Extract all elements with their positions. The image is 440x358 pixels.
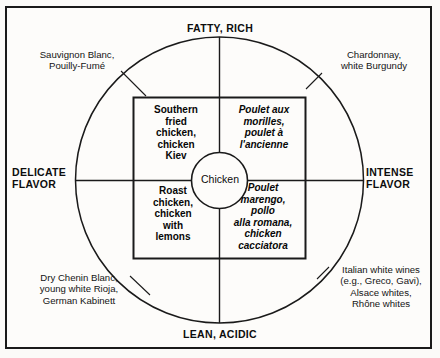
axis-label-top: FATTY, RICH — [0, 22, 440, 34]
axis-label-left: DELICATE FLAVOR — [12, 166, 92, 190]
leader-line-top-left — [121, 71, 146, 96]
food-quadrant-bottom-right: Poulet marengo, pollo alla romana, chick… — [222, 182, 304, 252]
leader-line-top-right — [306, 73, 322, 89]
axis-label-bottom: LEAN, ACIDIC — [0, 328, 440, 340]
wine-note-bottom-right: Italian white wines (e.g., Greco, Gavi),… — [326, 264, 436, 310]
food-quadrant-top-left: Southern fried chicken, chicken Kiev — [137, 104, 215, 162]
wine-note-top-right: Chardonnay, white Burgundy — [318, 49, 430, 72]
center-label: Chicken — [186, 173, 254, 185]
wine-note-top-left: Sauvignon Blanc, Pouilly-Fumé — [14, 49, 140, 72]
diagram-page: FATTY, RICH LEAN, ACIDIC DELICATE FLAVOR… — [0, 0, 440, 358]
food-quadrant-top-right: Poulet aux morilles, poulet à l'ancienne — [224, 104, 304, 150]
axis-label-right: INTENSE FLAVOR — [366, 166, 438, 190]
wine-note-bottom-left: Dry Chenin Blanc, young white Rioja, Ger… — [12, 272, 146, 306]
food-quadrant-bottom-left: Roast chicken, chicken with lemons — [137, 185, 209, 243]
